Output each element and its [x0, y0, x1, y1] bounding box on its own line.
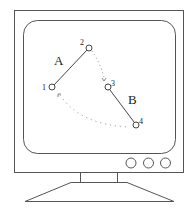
monitor-frame	[15, 11, 184, 173]
monitor-button	[161, 158, 171, 168]
point-label-2: 2	[80, 38, 84, 47]
dotted-link-1-4	[60, 95, 130, 127]
arrow-mark	[102, 78, 106, 81]
monitor-diagram: 1 2 3 4 A B	[0, 0, 194, 213]
point-label-3: 3	[111, 79, 115, 88]
point-1	[49, 84, 55, 90]
point-2	[86, 45, 92, 51]
dotted-link-2-3	[92, 51, 104, 78]
monitor-button	[144, 158, 154, 168]
point-label-1: 1	[42, 83, 46, 92]
segment-label-b: B	[128, 92, 137, 107]
monitor-button	[126, 158, 136, 168]
monitor-base	[25, 183, 174, 202]
monitor-screen	[24, 21, 176, 154]
segment-label-a: A	[54, 53, 64, 68]
point-label-4: 4	[139, 117, 143, 126]
